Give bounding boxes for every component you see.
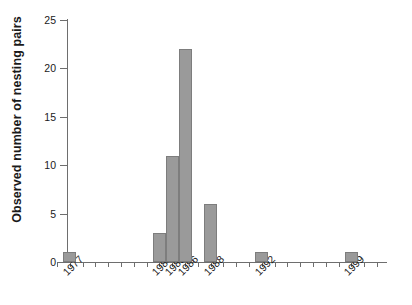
bar: [166, 156, 179, 262]
x-tick-mark: [326, 262, 327, 267]
y-tick-mark: [60, 20, 68, 21]
y-tick-mark: [60, 214, 68, 215]
x-tick-mark: [108, 262, 109, 267]
x-tick-mark: [121, 262, 122, 267]
bar: [153, 233, 166, 262]
x-tick-mark: [300, 262, 301, 267]
y-tick-label: 10: [14, 160, 56, 170]
y-tick-mark: [60, 165, 68, 166]
bar: [345, 252, 358, 262]
bar-chart: Observed number of nesting pairs 0510152…: [0, 0, 412, 305]
bar: [204, 204, 217, 262]
bar: [179, 49, 192, 262]
x-tick-mark: [377, 262, 378, 267]
y-tick-mark: [60, 117, 68, 118]
y-axis-title: Observed number of nesting pairs: [0, 0, 34, 265]
y-tick-label: 20: [14, 63, 56, 73]
x-tick-mark: [147, 262, 148, 267]
y-tick-label: 25: [14, 15, 56, 25]
y-tick-label: 0: [14, 257, 56, 267]
x-tick-mark: [134, 262, 135, 267]
x-tick-mark: [57, 262, 58, 267]
y-axis-line: [67, 19, 68, 263]
y-tick-mark: [60, 68, 68, 69]
x-tick-mark: [313, 262, 314, 267]
bar: [63, 252, 76, 262]
y-tick-label: 5: [14, 209, 56, 219]
y-tick-label: 15: [14, 112, 56, 122]
bar: [255, 252, 268, 262]
x-tick-mark: [339, 262, 340, 267]
x-tick-mark: [287, 262, 288, 267]
x-tick-mark: [249, 262, 250, 267]
x-tick-mark: [236, 262, 237, 267]
x-tick-mark: [95, 262, 96, 267]
